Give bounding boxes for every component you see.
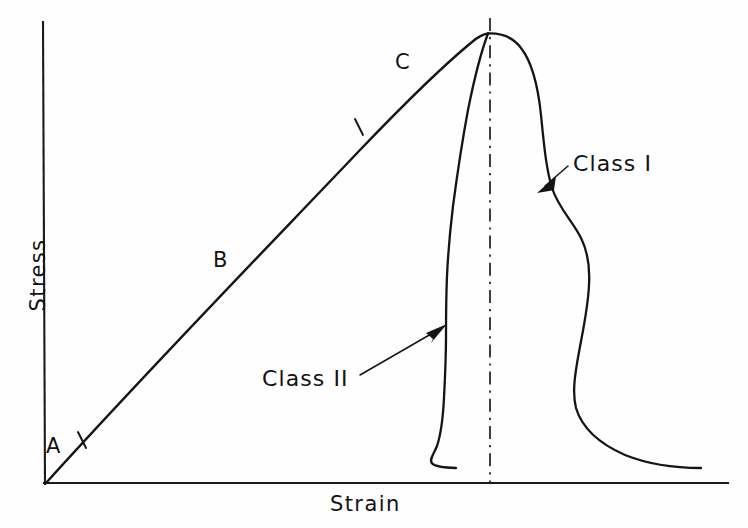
class-one-curve <box>488 33 701 468</box>
x-axis-title: Strain <box>330 492 401 516</box>
point-label-a: A <box>46 434 61 458</box>
figure-canvas <box>0 0 748 528</box>
class-two-curve-group <box>431 34 488 469</box>
class-two-leader-line <box>360 330 438 375</box>
tick-mark-near-c <box>355 119 363 135</box>
axes-group <box>43 22 728 484</box>
class-two-label: Class II <box>262 366 349 391</box>
stress-strain-figure: Stress Strain A B C Class I Class II <box>0 0 748 528</box>
class-one-curve-group <box>488 33 701 468</box>
loading-line-group <box>46 34 488 484</box>
y-axis-title: Stress <box>26 215 50 335</box>
point-label-c: C <box>395 50 410 74</box>
class-two-curve <box>431 34 488 469</box>
class-one-annotation-group <box>537 166 568 193</box>
class-two-annotation-group <box>360 324 447 375</box>
class-one-label: Class I <box>573 151 652 176</box>
class-two-arrow-head <box>426 324 447 343</box>
loading-line-abc <box>46 34 488 484</box>
point-label-b: B <box>213 248 228 272</box>
